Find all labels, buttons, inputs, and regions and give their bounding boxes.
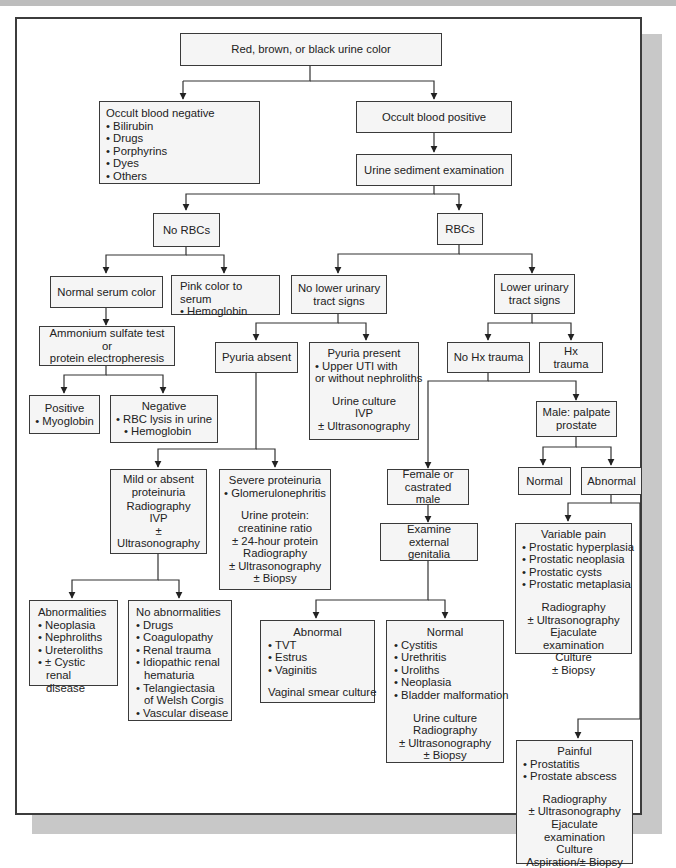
occult-negative-item: Dyes (106, 157, 253, 170)
painful-title: Painful (523, 745, 626, 758)
genital-abnormal-item: Vaginitis (268, 664, 367, 677)
genital-normal-test: Urine culture (394, 712, 496, 725)
node-severe-proteinuria: Severe proteinuria Glomerulonephritis Ur… (219, 469, 331, 590)
variable-pain-item: Prostatic cysts (522, 566, 625, 579)
negative-item: RBC lysis in urine (116, 413, 212, 426)
node-hx-trauma: Hx trauma (539, 342, 603, 373)
abnormalities-item: Neoplasia (38, 619, 109, 632)
severe-test: ± Ultrasonography (229, 560, 321, 573)
lower-line2: tract signs (509, 294, 560, 307)
prostate-abnormal-text: Abnormal (587, 475, 635, 488)
variable-pain-test: Ejaculate examination (522, 626, 625, 651)
node-pink-serum: Pink color to serum Hemoglobin (171, 275, 280, 315)
no-rbcs-text: No RBCs (163, 224, 210, 237)
abnormalities-item: ± Cystic renal disease (38, 656, 109, 694)
male-line1: Male: palpate (543, 406, 611, 419)
mild-test: IVP (149, 512, 167, 525)
abnormalities-title: Abnormalities (38, 606, 109, 619)
pyuria-present-cont: or without nephroliths (315, 372, 413, 385)
node-root: Red, brown, or black urine color (180, 33, 442, 66)
pink-serum-item: Hemoglobin (180, 305, 271, 318)
genital-normal-item: Uroliths (394, 664, 496, 677)
negative-title: Negative (142, 400, 187, 413)
abnormalities-item: Ureteroliths (38, 644, 109, 657)
variable-pain-test: ± Ultrasonography (522, 614, 625, 627)
painful-test: Radiography (523, 793, 626, 806)
node-abnormalities: Abnormalities Neoplasia Nephroliths Uret… (29, 600, 118, 686)
mild-test: Radiography (126, 500, 190, 513)
node-no-hx-trauma: No Hx trauma (447, 342, 530, 373)
positive-item: Myoglobin (35, 415, 94, 428)
painful-test: ± Ultrasonography (523, 805, 626, 818)
node-no-lower-urinary: No lower urinary tract signs (291, 275, 387, 314)
node-genital-normal: Normal Cystitis Urethritis Uroliths Neop… (386, 620, 504, 763)
female-line1: Female or (403, 468, 454, 481)
genital-normal-item: Bladder malformation (394, 689, 496, 702)
mild-line2: proteinuria (132, 486, 185, 499)
positive-title: Positive (45, 402, 85, 415)
node-pyuria-absent: Pyuria absent (215, 342, 298, 373)
variable-pain-item: Prostatic hyperplasia (522, 541, 625, 554)
occult-positive-text: Occult blood positive (382, 111, 486, 124)
genital-normal-title: Normal (394, 626, 496, 639)
no-lower-line2: tract signs (313, 295, 364, 308)
painful-item: Prostatitis (523, 758, 626, 771)
node-occult-negative: Occult blood negative Bilirubin Drugs Po… (99, 101, 260, 184)
severe-test: ± 24-hour protein (232, 535, 318, 548)
severe-test: ± Biopsy (253, 572, 296, 585)
pyuria-present-item: Upper UTI with (315, 360, 413, 373)
node-occult-positive: Occult blood positive (356, 101, 512, 133)
no-hx-text: No Hx trauma (454, 351, 524, 364)
occult-negative-item: Others (106, 170, 253, 183)
pyuria-absent-text: Pyuria absent (222, 351, 291, 364)
no-abnormalities-item: Renal trauma (136, 644, 224, 657)
node-sediment-exam: Urine sediment examination (356, 154, 512, 186)
genital-abnormal-item: Estrus (268, 651, 367, 664)
female-line2: castrated male (393, 481, 463, 506)
node-positive: Positive Myoglobin (29, 395, 100, 434)
pyuria-present-test: IVP (315, 407, 413, 420)
node-no-rbcs: No RBCs (153, 213, 220, 247)
no-abnormalities-item: Vascular disease (136, 707, 224, 720)
painful-test: Ejaculate examination (523, 818, 626, 843)
variable-pain-test: Culture (522, 651, 625, 664)
node-mild-proteinuria: Mild or absent proteinuria Radiography I… (110, 469, 207, 554)
genital-abnormal-title: Abnormal (268, 626, 367, 639)
rbcs-text: RBCs (445, 223, 475, 236)
pink-serum-title: Pink color to serum (180, 280, 271, 305)
occult-negative-item: Bilirubin (106, 120, 253, 133)
node-variable-pain: Variable pain Prostatic hyperplasia Pros… (515, 523, 632, 654)
node-negative: Negative RBC lysis in urine Hemoglobin (110, 395, 218, 443)
genital-normal-item: Cystitis (394, 639, 496, 652)
severe-test: Radiography (243, 547, 307, 560)
mild-line1: Mild or absent (123, 473, 194, 486)
genital-abnormal-test: Vaginal smear culture (268, 686, 367, 699)
severe-title: Severe proteinuria (229, 474, 321, 487)
occult-negative-title: Occult blood negative (106, 107, 253, 120)
node-rbcs: RBCs (437, 213, 483, 245)
genital-abnormal-item: TVT (268, 639, 367, 652)
no-abnormalities-item: Idiopathic renal hematuria (136, 656, 224, 681)
painful-test: Aspiration/± Biopsy (523, 856, 626, 868)
pyuria-present-title: Pyuria present (315, 347, 413, 360)
genital-normal-item: Neoplasia (394, 676, 496, 689)
no-abnormalities-item: Telangiectasia of Welsh Corgis (136, 682, 224, 707)
painful-item: Prostate abscess (523, 770, 626, 783)
variable-pain-item: Prostatic metaplasia (522, 578, 625, 591)
male-line2: prostate (556, 419, 597, 432)
no-abnormalities-title: No abnormalities (136, 606, 224, 619)
ammonium-line1: Ammonium sulfate test or (45, 327, 169, 352)
node-examine-genitalia: Examine external genitalia (380, 523, 478, 561)
node-normal-serum: Normal serum color (50, 276, 163, 308)
occult-negative-item: Drugs (106, 132, 253, 145)
abnormalities-item: Nephroliths (38, 631, 109, 644)
examine-line2: genitalia (408, 548, 450, 561)
variable-pain-item: Prostatic neoplasia (522, 553, 625, 566)
no-abnormalities-item: Coagulopathy (136, 631, 224, 644)
prostate-normal-text: Normal (526, 475, 562, 488)
node-lower-urinary: Lower urinary tract signs (494, 274, 575, 314)
node-root-text: Red, brown, or black urine color (231, 43, 391, 56)
node-pyuria-present: Pyuria present Upper UTI with or without… (309, 342, 419, 440)
no-lower-line1: No lower urinary (298, 282, 380, 295)
node-no-abnormalities: No abnormalities Drugs Coagulopathy Rena… (128, 600, 232, 721)
